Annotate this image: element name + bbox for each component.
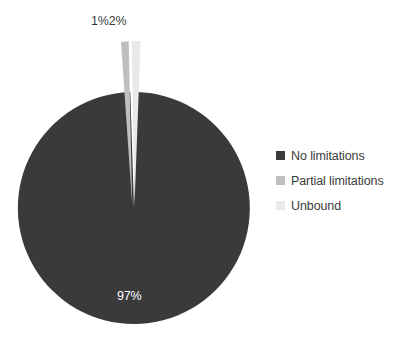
legend-label-no-limitations: No limitations	[291, 149, 365, 163]
legend-label-unbound: Unbound	[291, 199, 341, 213]
legend-label-partial-limitations: Partial limitations	[291, 174, 384, 188]
legend-item-partial-limitations[interactable]: Partial limitations	[276, 168, 398, 193]
legend-item-unbound[interactable]: Unbound	[276, 193, 398, 218]
slice-label-partial: 2%	[109, 14, 127, 28]
pie-chart-figure: 1%2% 97% No limitations Partial limitati…	[0, 0, 400, 341]
legend-swatch-no-limitations	[276, 151, 285, 160]
legend-item-no-limitations[interactable]: No limitations	[276, 143, 398, 168]
legend-swatch-partial-limitations	[276, 176, 285, 185]
chart-legend: No limitations Partial limitations Unbou…	[276, 143, 398, 218]
small-slice-labels: 1%2%	[91, 14, 126, 28]
slice-label-unbound: 1%	[91, 14, 109, 28]
slice-label-no-limitations: 97%	[117, 289, 141, 303]
legend-swatch-unbound	[276, 201, 285, 210]
